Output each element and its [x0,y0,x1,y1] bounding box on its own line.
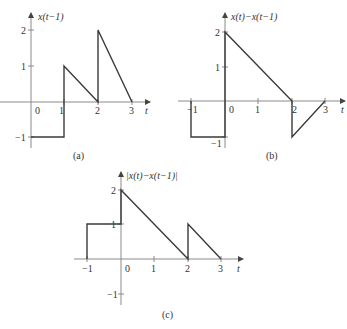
x-axis-label: t [145,105,148,116]
x-axis-label: t [341,104,344,115]
x-tick-label: 2 [185,263,190,274]
signal-trace [87,190,221,259]
y-axis-label: x(t)−x(t−1) [230,11,278,23]
x-tick-label: 3 [323,104,328,115]
y-axis-label: |x(t)−x(t−1)| [126,170,178,182]
y-tick-label: 1 [111,219,116,230]
x-tick-label: 0 [35,105,40,116]
y-tick-label: 1 [21,61,26,72]
y-tick-label: −1 [107,289,118,300]
signal-figure: x(t−1) t 2 1 −1 0 1 2 3 (a) x(t)−x(t−1) … [0,0,347,329]
x-axis-label: t [237,263,240,274]
y-tick-label: 2 [111,185,116,196]
y-axis-label: x(t−1) [37,11,64,23]
x-tick-label: 1 [151,263,156,274]
y-tick-label: 2 [21,25,26,36]
signal-trace [31,30,132,137]
y-tick-label: 2 [215,27,220,38]
x-tick-label: 2 [292,104,297,115]
y-tick-label: −1 [211,138,222,149]
y-tick-label: 1 [215,62,220,73]
caption: (b) [266,150,278,162]
panel-c: |x(t)−x(t−1)| t 2 1 −1 −1 0 1 2 3 (c) [74,170,243,321]
x-tick-label: −1 [187,104,198,115]
x-tick-label: 1 [255,104,260,115]
panel-a: x(t−1) t 2 1 −1 0 1 2 3 (a) [0,11,150,162]
signal-trace [191,32,325,137]
x-tick-label: 2 [95,105,100,116]
x-tick-label: 1 [59,105,64,116]
panel-b: x(t)−x(t−1) t 2 1 −1 −1 0 1 2 3 (b) [178,11,345,162]
caption: (c) [162,309,173,321]
x-tick-label: 3 [129,105,134,116]
x-tick-label: 3 [218,263,223,274]
x-tick-label: 0 [125,263,130,274]
y-tick-label: −1 [15,132,26,143]
x-tick-label: 0 [229,104,234,115]
caption: (a) [73,150,84,162]
x-tick-label: −1 [82,263,93,274]
